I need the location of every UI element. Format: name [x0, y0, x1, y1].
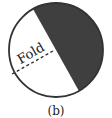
figure-caption: (b): [47, 104, 64, 118]
folded-circle-diagram: Fold (b): [0, 0, 112, 118]
